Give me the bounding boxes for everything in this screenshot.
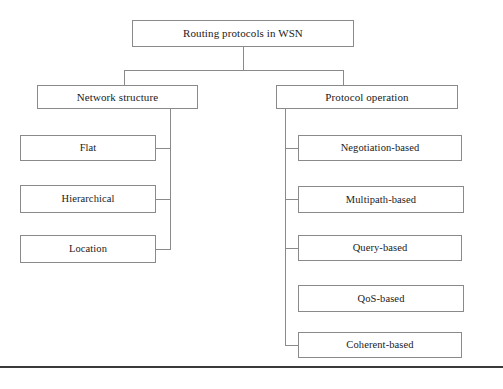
- node-routing-protocols-in-wsn[interactable]: Routing protocols in WSN: [132, 20, 354, 47]
- node-flat[interactable]: Flat: [20, 135, 156, 161]
- connector-left-branch-spine: [170, 109, 171, 249]
- connector-to-protocol-operation: [343, 70, 344, 85]
- node-label: Location: [69, 243, 107, 255]
- connector-stub-hierarchical: [155, 199, 171, 200]
- node-query-based[interactable]: Query-based: [298, 235, 462, 261]
- node-label: Multipath-based: [346, 194, 416, 206]
- node-label: Network structure: [77, 91, 158, 103]
- page-divider-rule: [0, 366, 503, 368]
- connector-stub-flat: [155, 148, 171, 149]
- node-location[interactable]: Location: [20, 235, 156, 263]
- node-multipath-based[interactable]: Multipath-based: [298, 186, 464, 213]
- connector-stub-negotiation-based: [285, 148, 299, 149]
- node-label: Hierarchical: [61, 193, 114, 205]
- node-label: Routing protocols in WSN: [183, 27, 303, 39]
- node-hierarchical[interactable]: Hierarchical: [20, 185, 156, 213]
- node-coherent-based[interactable]: Coherent-based: [298, 332, 462, 358]
- connector-root-horizontal-bar: [124, 70, 344, 71]
- node-label: Negotiation-based: [341, 142, 420, 154]
- connector-stub-coherent-based: [285, 345, 299, 346]
- node-negotiation-based[interactable]: Negotiation-based: [298, 135, 462, 161]
- node-network-structure[interactable]: Network structure: [37, 85, 198, 109]
- connector-stub-multipath-based: [285, 199, 299, 200]
- connector-root-drop: [243, 47, 244, 70]
- node-label: QoS-based: [358, 293, 405, 305]
- node-label: Query-based: [353, 242, 408, 254]
- connector-stub-location: [155, 249, 171, 250]
- node-qos-based[interactable]: QoS-based: [298, 285, 464, 312]
- connector-stub-query-based: [285, 248, 299, 249]
- node-label: Flat: [80, 142, 97, 154]
- node-label: Coherent-based: [346, 339, 413, 351]
- connector-to-network-structure: [124, 70, 125, 85]
- node-label: Protocol operation: [325, 91, 408, 103]
- connector-right-branch-spine: [285, 109, 286, 345]
- diagram-canvas: Routing protocols in WSN Network structu…: [0, 0, 503, 389]
- node-protocol-operation[interactable]: Protocol operation: [276, 85, 458, 109]
